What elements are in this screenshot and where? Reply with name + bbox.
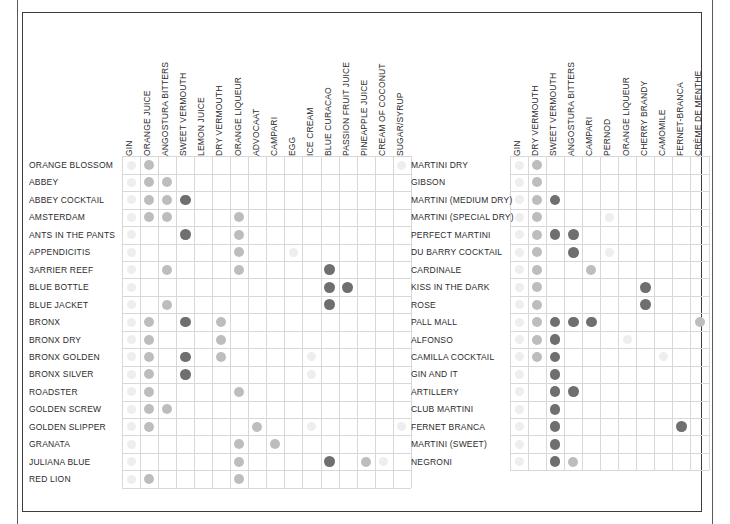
column-header: LEMON JUICE bbox=[196, 97, 206, 156]
column-header: PINEAPPLE JUICE bbox=[359, 80, 369, 156]
row-label: PERFECT MARTINI bbox=[411, 231, 730, 240]
column-header: ICE CREAM bbox=[305, 107, 315, 156]
gridline-vertical bbox=[375, 156, 376, 488]
gridline-horizontal bbox=[122, 244, 411, 245]
row-label: FERNET BRANCA bbox=[411, 423, 730, 432]
gridline-horizontal bbox=[122, 453, 411, 454]
gridline-horizontal bbox=[122, 296, 411, 297]
row-label: GIN AND IT bbox=[411, 370, 730, 379]
page-canvas: GINORANGE JUICEANGOSTURA BITTERSSWEET VE… bbox=[0, 0, 730, 524]
row-label: ORANGE BLOSSOM bbox=[23, 161, 129, 170]
gridline-vertical bbox=[158, 156, 159, 488]
gridline-vertical bbox=[140, 156, 141, 488]
column-header: ORANGE LIQUEUR bbox=[621, 77, 631, 156]
column-header: SWEET VERMOUTH bbox=[178, 73, 188, 156]
gridline-vertical bbox=[357, 156, 358, 488]
row-label: GIBSON bbox=[411, 178, 730, 187]
row-label: PALL MALL bbox=[411, 318, 730, 327]
row-label: APPENDICITIS bbox=[23, 248, 129, 257]
gridline-horizontal bbox=[510, 313, 709, 314]
gridline-horizontal bbox=[510, 366, 709, 367]
column-header: PERNOD bbox=[602, 119, 612, 156]
gridline-horizontal bbox=[510, 331, 709, 332]
row-label: CLUB MARTINI bbox=[411, 405, 730, 414]
gridline-horizontal bbox=[122, 331, 411, 332]
row-label: CAMILLA COCKTAIL bbox=[411, 353, 730, 362]
gridline-horizontal bbox=[510, 209, 709, 210]
column-header: ORANGE LIQUEUR bbox=[233, 77, 243, 156]
gridline-horizontal bbox=[122, 174, 411, 175]
gridline-vertical bbox=[266, 156, 267, 488]
gridline-horizontal bbox=[122, 313, 411, 314]
gridline-horizontal bbox=[510, 418, 709, 419]
row-label: MARTINI (SPECIAL DRY) bbox=[411, 213, 730, 222]
column-header: FERNET-BRANCA bbox=[675, 82, 685, 156]
gridline-horizontal bbox=[122, 470, 411, 471]
gridline-vertical bbox=[248, 156, 249, 488]
gridline-vertical bbox=[212, 156, 213, 488]
column-header: DRY VERMOUTH bbox=[214, 86, 224, 156]
gridline-vertical bbox=[302, 156, 303, 488]
gridline-horizontal bbox=[122, 348, 411, 349]
row-label: ABBEY COCKTAIL bbox=[23, 196, 129, 205]
row-label: ANTS IN THE PANTS bbox=[23, 231, 129, 240]
row-label: ABBEY bbox=[23, 178, 129, 187]
gridline-horizontal bbox=[510, 453, 709, 454]
row-label: GOLDEN SCREW bbox=[23, 405, 129, 414]
gridline-horizontal bbox=[122, 435, 411, 436]
row-label: KISS IN THE DARK bbox=[411, 283, 730, 292]
gridline-horizontal bbox=[510, 156, 709, 157]
gridline-horizontal bbox=[122, 383, 411, 384]
row-label: ROADSTER bbox=[23, 388, 129, 397]
column-header: CRÈME DE MENTHE bbox=[693, 71, 703, 156]
gridline-horizontal bbox=[122, 156, 411, 157]
column-header: BLUE CURACAO bbox=[323, 87, 333, 156]
row-label: ALFONSO bbox=[411, 336, 730, 345]
row-label: ARTILLERY bbox=[411, 388, 730, 397]
row-label: MARTINI (MEDIUM DRY) bbox=[411, 196, 730, 205]
column-header: SUGAR/SYRUP bbox=[395, 92, 405, 156]
row-label: BRONX DRY bbox=[23, 336, 129, 345]
column-header: GIN bbox=[512, 140, 522, 156]
gridline-horizontal bbox=[510, 226, 709, 227]
row-label: NEGRONI bbox=[411, 458, 730, 467]
gridline-horizontal bbox=[510, 383, 709, 384]
gridline-vertical bbox=[176, 156, 177, 488]
row-label: MARTINI (SWEET) bbox=[411, 440, 730, 449]
gridline-vertical bbox=[230, 156, 231, 488]
gridline-horizontal bbox=[510, 401, 709, 402]
gridline-horizontal bbox=[510, 470, 709, 471]
gridline-horizontal bbox=[510, 296, 709, 297]
column-header: ANGOSTURA BITTERS bbox=[160, 62, 170, 156]
gridline-horizontal bbox=[122, 191, 411, 192]
column-header: ANGOSTURA BITTERS bbox=[566, 62, 576, 156]
row-label: GRANATA bbox=[23, 440, 129, 449]
gridline-horizontal bbox=[510, 191, 709, 192]
row-label: DU BARRY COCKTAIL bbox=[411, 248, 730, 257]
column-header: CAMPARI bbox=[269, 117, 279, 156]
column-header: CHERRY BRANDY bbox=[639, 81, 649, 156]
row-label: CARDINALE bbox=[411, 266, 730, 275]
gridline-horizontal bbox=[510, 244, 709, 245]
row-label: JULIANA BLUE bbox=[23, 458, 129, 467]
gridline-vertical bbox=[321, 156, 322, 488]
gridline-horizontal bbox=[122, 209, 411, 210]
column-header: GIN bbox=[124, 140, 134, 156]
gridline-horizontal bbox=[122, 366, 411, 367]
column-header: ORANGE JUICE bbox=[142, 90, 152, 156]
column-header: ADVOCAAT bbox=[251, 109, 261, 156]
gridline-horizontal bbox=[122, 401, 411, 402]
gridline-horizontal bbox=[510, 278, 709, 279]
row-label: ROSE bbox=[411, 301, 730, 310]
row-label: AMSTERDAM bbox=[23, 213, 129, 222]
column-header: DRY VERMOUTH bbox=[530, 86, 540, 156]
matrix-gridlines bbox=[122, 156, 411, 488]
row-label: BRONX GOLDEN bbox=[23, 353, 129, 362]
row-label: 3ARRIER REEF bbox=[23, 266, 129, 275]
gridline-vertical bbox=[284, 156, 285, 488]
gridline-horizontal bbox=[122, 418, 411, 419]
gridline-horizontal bbox=[510, 174, 709, 175]
column-header: CAMOMILE bbox=[657, 109, 667, 156]
gridline-horizontal bbox=[122, 488, 411, 489]
gridline-horizontal bbox=[122, 261, 411, 262]
